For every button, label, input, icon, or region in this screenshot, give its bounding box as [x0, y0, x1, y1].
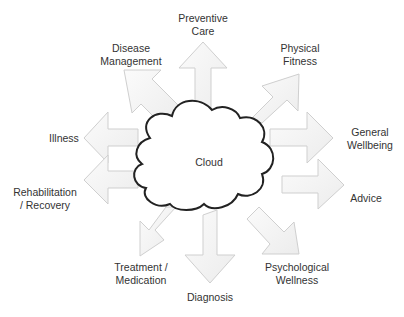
- label-diagnosis: Diagnosis: [180, 291, 240, 304]
- arrow-left-icon: [84, 112, 138, 163]
- arrow-down-left-icon: [140, 207, 176, 256]
- label-illness: Illness: [44, 132, 84, 145]
- center-label: Cloud: [184, 156, 234, 169]
- arrow-down-right-icon: [247, 207, 299, 254]
- label-preventive-care: Preventive Care: [173, 12, 233, 38]
- arrow-left-icon: [84, 155, 138, 204]
- label-disease-management: Disease Management: [96, 42, 166, 68]
- arrow-down-icon: [185, 210, 235, 283]
- label-rehabilitation-recovery: Rehabilitation / Recovery: [10, 186, 80, 212]
- label-advice: Advice: [346, 192, 386, 205]
- label-psychological-wellness: Psychological Wellness: [262, 261, 332, 287]
- arrow-up-right-icon: [250, 74, 299, 123]
- label-physical-fitness: Physical Fitness: [270, 42, 330, 68]
- label-treatment-medication: Treatment / Medication: [106, 261, 176, 287]
- label-general-wellbeing: General Wellbeing: [340, 126, 400, 152]
- arrow-right-icon: [282, 159, 344, 209]
- arrow-right-icon: [270, 112, 333, 163]
